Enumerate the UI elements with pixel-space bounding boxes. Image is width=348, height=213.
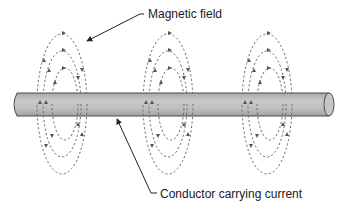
magnetic-field-diagram: Magnetic field Conductor carrying curren… [0,0,348,213]
magnetic-field-leader-line [87,14,144,41]
field-direction-arrows [38,31,289,148]
rod-end-cap [324,93,334,116]
magnetic-field-label: Magnetic field [148,7,222,21]
arrow-icon [62,66,66,70]
conductor-callout: Conductor carrying current [117,119,303,201]
conductor-label: Conductor carrying current [160,187,303,201]
magnetic-field-callout: Magnetic field [87,7,222,41]
